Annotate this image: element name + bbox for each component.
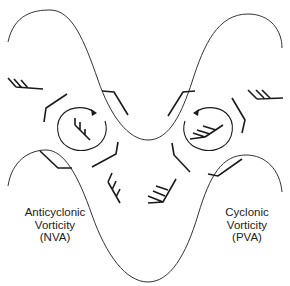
label-line: (NVA): [10, 231, 100, 244]
wind-barb-icon: [172, 143, 190, 172]
label-line: Vorticity: [214, 219, 280, 232]
wind-barb-icon: [248, 90, 283, 99]
wind-barb-icon: [232, 98, 245, 133]
cyclonic-vorticity-label: Cyclonic Vorticity (PVA): [214, 206, 280, 244]
wind-barb-icon: [102, 91, 128, 115]
wind-barb-icon: [92, 142, 118, 167]
label-line: (PVA): [214, 231, 280, 244]
wind-barb-icon: [75, 118, 90, 140]
wind-barb-icon: [44, 94, 67, 122]
anticyclonic-circulation: [58, 108, 107, 151]
wind-barbs: [8, 78, 283, 203]
arrow-head-icon: [193, 109, 199, 116]
label-line: Anticyclonic: [10, 206, 100, 219]
wind-barb-icon: [108, 173, 120, 203]
wind-barb-icon: [168, 91, 195, 116]
wind-barb-icon: [190, 125, 223, 139]
arrow-head-icon: [91, 109, 97, 116]
anticyclonic-vorticity-label: Anticyclonic Vorticity (NVA): [10, 206, 100, 244]
wind-barb-icon: [40, 151, 72, 168]
wind-barb-icon: [8, 78, 43, 89]
wind-barb-icon: [148, 179, 176, 203]
cyclonic-circulation: [184, 108, 233, 151]
label-line: Vorticity: [10, 219, 100, 232]
upper-height-contour: [8, 10, 282, 140]
label-line: Cyclonic: [214, 206, 280, 219]
